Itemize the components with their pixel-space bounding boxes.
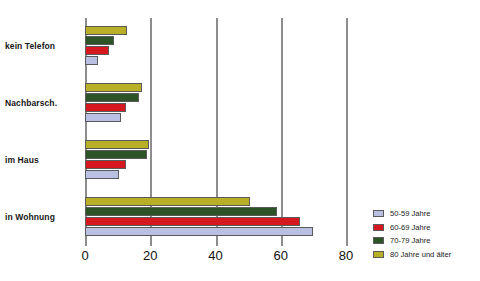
legend-item-60-69: 60-69 Jahre [373, 221, 477, 235]
bar-im-haus-70-79 [85, 150, 147, 159]
category-label-im-haus: im Haus [5, 155, 83, 165]
category-label-in-wohnung: in Wohnung [5, 212, 83, 222]
legend-label-80plus: 80 Jahre und älter [390, 250, 451, 259]
legend-label-70-79: 70-79 Jahre [390, 236, 431, 245]
xtick-label-40: 40 [196, 248, 236, 263]
legend-label-60-69: 60-69 Jahre [390, 223, 431, 232]
bar-nachbarsch-70-79 [85, 93, 139, 102]
bar-im-haus-60-69 [85, 160, 126, 169]
category-label-kein-telefon: kein Telefon [5, 41, 83, 51]
category-axis-labels: kein Telefon Nachbarsch. im Haus in Wohn… [5, 18, 83, 246]
xtick-label-0: 0 [65, 248, 105, 263]
bar-in-wohnung-80plus [85, 197, 250, 206]
bar-group-nachbarsch [85, 75, 346, 132]
bar-nachbarsch-80plus [85, 83, 142, 92]
bar-kein-telefon-50-59 [85, 56, 98, 65]
bar-kein-telefon-70-79 [85, 36, 114, 45]
bar-nachbarsch-60-69 [85, 103, 126, 112]
bar-chart: kein Telefon Nachbarsch. im Haus in Wohn… [0, 0, 480, 281]
chart-legend: 50-59 Jahre 60-69 Jahre 70-79 Jahre 80 J… [373, 207, 477, 261]
category-label-nachbarsch: Nachbarsch. [5, 98, 83, 108]
bar-group-im-haus [85, 132, 346, 189]
bar-im-haus-80plus [85, 140, 149, 149]
bar-im-haus-50-59 [85, 170, 119, 179]
legend-swatch-icon-80plus [373, 251, 384, 258]
bar-kein-telefon-60-69 [85, 46, 109, 55]
bar-in-wohnung-70-79 [85, 207, 277, 216]
legend-swatch-icon-60-69 [373, 224, 384, 231]
plot-area [85, 18, 346, 246]
bar-group-in-wohnung [85, 189, 346, 246]
bar-group-kein-telefon [85, 18, 346, 75]
legend-swatch-icon-70-79 [373, 237, 384, 244]
bar-in-wohnung-60-69 [85, 217, 300, 226]
gridline-80 [346, 18, 348, 246]
xtick-label-80: 80 [326, 248, 366, 263]
legend-swatch-icon-50-59 [373, 210, 384, 217]
bar-nachbarsch-50-59 [85, 113, 121, 122]
legend-item-50-59: 50-59 Jahre [373, 207, 477, 221]
bar-kein-telefon-80plus [85, 26, 127, 35]
xtick-label-20: 20 [130, 248, 170, 263]
legend-item-70-79: 70-79 Jahre [373, 234, 477, 248]
legend-item-80plus: 80 Jahre und älter [373, 248, 477, 262]
xtick-label-60: 60 [261, 248, 301, 263]
legend-label-50-59: 50-59 Jahre [390, 209, 431, 218]
bar-in-wohnung-50-59 [85, 227, 313, 236]
